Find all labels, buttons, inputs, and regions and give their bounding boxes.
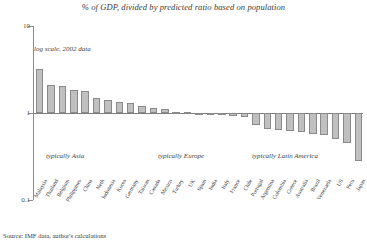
bar (172, 112, 180, 114)
x-axis-label-text: India (208, 178, 219, 191)
x-axis-label-text: Neth (94, 178, 105, 190)
bar (355, 113, 363, 161)
bar (116, 102, 124, 113)
bar (309, 113, 317, 134)
bar (218, 113, 226, 115)
bar (59, 86, 67, 113)
bar (161, 109, 169, 113)
x-axis-label-text: Japan (355, 178, 367, 192)
bar (81, 91, 89, 113)
bar (195, 113, 203, 115)
bar (138, 106, 146, 113)
bar (264, 113, 272, 129)
x-axis-label-text: Spain (196, 178, 208, 192)
region-label-europe: typically Europe (158, 152, 204, 160)
bar (275, 113, 283, 130)
y-tick-label: 0.1 (21, 196, 30, 204)
x-axis-label-text: Italy (220, 178, 230, 190)
bar (127, 103, 135, 113)
bar (70, 90, 78, 113)
x-axis-label-text: Peru (345, 178, 355, 190)
bar (241, 113, 249, 117)
bar (343, 113, 351, 143)
region-label-latam: typically Latin America (252, 152, 318, 160)
bar (229, 113, 237, 116)
chart-root: % of GDP, divided by predicted ratio bas… (0, 0, 367, 247)
x-axis-label-text: China (82, 178, 94, 193)
source-note: Source: IMF data, author's calculations (3, 232, 106, 239)
x-axis-labels: MalaysiaThailandBelgiumPhilippinesChinaN… (34, 178, 364, 230)
bar (332, 113, 340, 139)
bar (104, 100, 112, 113)
bar (252, 113, 260, 125)
y-tick-label: 1 (27, 109, 31, 117)
region-label-asia: typically Asia (46, 152, 84, 160)
bar (93, 98, 101, 113)
bar (207, 113, 215, 115)
bar (184, 112, 192, 114)
x-axis-label-text: UK (187, 178, 196, 188)
bar (286, 113, 294, 131)
x-axis-label-text: US (335, 178, 344, 187)
chart-title: % of GDP, divided by predicted ratio bas… (0, 2, 367, 12)
y-tick-label: 10 (23, 22, 30, 30)
bar (150, 108, 158, 113)
bar (298, 113, 306, 132)
bar (36, 69, 44, 113)
bar (47, 85, 55, 113)
bar (320, 113, 328, 135)
